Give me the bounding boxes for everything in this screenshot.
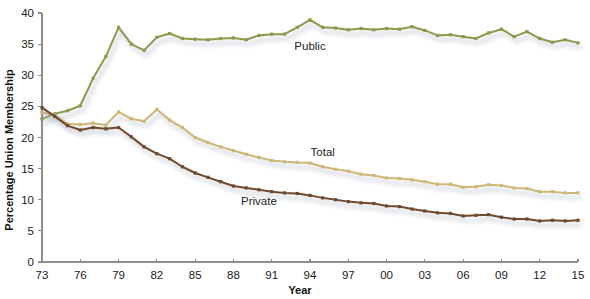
series-marker-public — [436, 34, 439, 37]
series-marker-total — [398, 177, 401, 180]
x-tick-label: 06 — [457, 269, 470, 281]
series-marker-total — [296, 161, 299, 164]
y-tick-label: 30 — [21, 69, 34, 81]
series-marker-private — [538, 219, 541, 222]
y-tick-label: 20 — [21, 132, 34, 144]
series-marker-private — [91, 126, 94, 129]
series-marker-private — [449, 212, 452, 215]
series-marker-total — [347, 170, 350, 173]
series-marker-private — [130, 135, 133, 138]
series-marker-private — [576, 219, 579, 222]
y-tick-label: 25 — [21, 100, 34, 112]
series-marker-private — [359, 201, 362, 204]
series-marker-private — [296, 192, 299, 195]
series-marker-private — [66, 124, 69, 127]
x-tick-label: 82 — [150, 269, 163, 281]
y-tick-label: 0 — [28, 256, 34, 268]
series-marker-public — [245, 38, 248, 41]
series-marker-private — [423, 209, 426, 212]
series-marker-public — [270, 33, 273, 36]
series-marker-total — [181, 126, 184, 129]
series-marker-public — [66, 109, 69, 112]
series-marker-private — [385, 204, 388, 207]
x-axis-title: Year — [288, 284, 312, 296]
series-marker-total — [283, 160, 286, 163]
series-marker-total — [487, 183, 490, 186]
series-marker-public — [232, 36, 235, 39]
series-marker-public — [257, 34, 260, 37]
series-marker-public — [91, 77, 94, 80]
series-marker-private — [462, 214, 465, 217]
series-label-private: Private — [241, 195, 277, 207]
series-marker-private — [206, 176, 209, 179]
series-marker-total — [104, 123, 107, 126]
series-marker-total — [194, 136, 197, 139]
series-marker-total — [321, 165, 324, 168]
x-tick-label: 03 — [418, 269, 431, 281]
series-marker-public — [411, 25, 414, 28]
y-tick-label: 5 — [28, 225, 34, 237]
series-marker-total — [130, 117, 133, 120]
series-marker-private — [181, 165, 184, 168]
x-tick-label: 12 — [533, 269, 546, 281]
y-tick-label: 35 — [21, 38, 34, 50]
series-marker-private — [398, 205, 401, 208]
union-membership-chart: 0510152025303540737679828588919497000306… — [0, 0, 590, 299]
series-marker-public — [372, 28, 375, 31]
series-marker-public — [359, 27, 362, 30]
y-axis-title: Percentage Union Membership — [3, 69, 15, 231]
series-marker-total — [117, 110, 120, 113]
series-marker-public — [538, 37, 541, 40]
series-marker-public — [168, 32, 171, 35]
series-marker-private — [500, 216, 503, 219]
series-marker-private — [245, 186, 248, 189]
series-marker-total — [551, 190, 554, 193]
series-marker-total — [423, 180, 426, 183]
series-marker-public — [181, 37, 184, 40]
series-marker-private — [513, 217, 516, 220]
series-marker-public — [194, 38, 197, 41]
series-marker-private — [194, 171, 197, 174]
x-tick-label: 09 — [495, 269, 508, 281]
series-marker-public — [462, 35, 465, 38]
series-marker-private — [155, 152, 158, 155]
series-marker-public — [117, 26, 120, 29]
series-marker-total — [270, 159, 273, 162]
series-marker-public — [308, 18, 311, 21]
series-marker-total — [334, 168, 337, 171]
series-marker-total — [372, 174, 375, 177]
x-tick-label: 15 — [572, 269, 585, 281]
series-label-total: Total — [311, 146, 335, 158]
series-marker-total — [155, 108, 158, 111]
series-shadow-public — [45, 24, 581, 123]
series-marker-private — [40, 106, 43, 109]
series-marker-total — [513, 186, 516, 189]
series-marker-private — [564, 219, 567, 222]
series-marker-private — [321, 196, 324, 199]
series-marker-public — [347, 28, 350, 31]
y-tick-label: 40 — [21, 7, 34, 19]
series-marker-public — [564, 38, 567, 41]
series-marker-private — [232, 184, 235, 187]
x-tick-label: 97 — [342, 269, 355, 281]
series-marker-public — [334, 26, 337, 29]
series-marker-total — [79, 123, 82, 126]
series-marker-private — [79, 128, 82, 131]
series-marker-private — [219, 180, 222, 183]
series-marker-total — [168, 118, 171, 121]
series-marker-public — [104, 55, 107, 58]
series-marker-private — [347, 200, 350, 203]
series-marker-public — [143, 49, 146, 52]
series-marker-private — [487, 213, 490, 216]
series-marker-total — [411, 178, 414, 181]
series-marker-public — [296, 26, 299, 29]
series-marker-total — [525, 187, 528, 190]
series-marker-private — [117, 126, 120, 129]
y-tick-label: 15 — [21, 163, 34, 175]
series-marker-total — [564, 191, 567, 194]
x-tick-label: 91 — [265, 269, 278, 281]
x-tick-label: 88 — [227, 269, 240, 281]
series-marker-private — [474, 214, 477, 217]
series-public — [40, 18, 580, 123]
series-marker-private — [143, 145, 146, 148]
